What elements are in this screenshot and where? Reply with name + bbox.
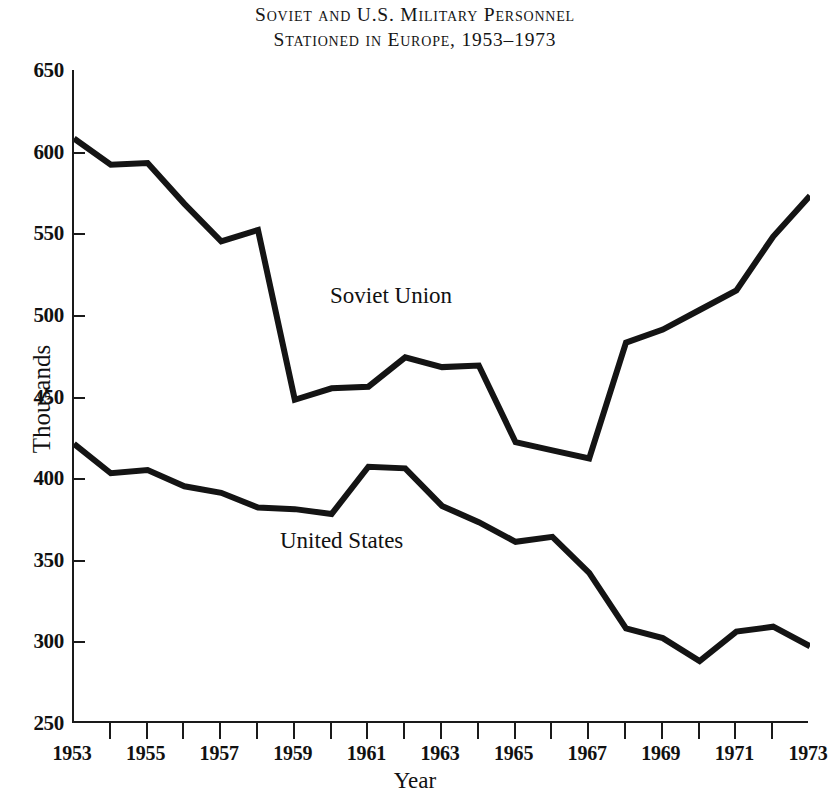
y-axis-tick-labels: 650600550500450400350300250 xyxy=(0,0,64,797)
x-axis-tick-mark xyxy=(146,723,148,739)
series-label-united-states: United States xyxy=(280,528,403,554)
x-axis-tick-mark xyxy=(330,723,332,739)
y-axis-tick-label: 600 xyxy=(8,139,64,164)
y-axis-tick-label: 350 xyxy=(8,547,64,572)
x-axis-tick-mark xyxy=(477,723,479,739)
x-axis-tick-mark xyxy=(624,723,626,739)
series-line-united-states xyxy=(74,444,810,661)
chart-plot-svg xyxy=(74,70,810,723)
x-axis-tick-mark xyxy=(293,723,295,739)
chart-title-line-1: Soviet and U.S. Military Personnel xyxy=(0,2,830,27)
x-axis-tick-mark xyxy=(182,723,184,739)
y-axis-tick-label: 250 xyxy=(8,711,64,736)
x-axis-tick-mark xyxy=(734,723,736,739)
y-axis-tick-label: 550 xyxy=(8,221,64,246)
series-label-soviet-union: Soviet Union xyxy=(330,283,452,309)
x-axis-tick-mark xyxy=(550,723,552,739)
y-axis-tick-label: 650 xyxy=(8,58,64,83)
x-axis-tick-mark xyxy=(256,723,258,739)
x-axis-tick-label: 1973 xyxy=(763,742,830,765)
x-axis-tick-mark xyxy=(219,723,221,739)
x-axis-tick-mark xyxy=(109,723,111,739)
chart-figure: Soviet and U.S. Military Personnel Stati… xyxy=(0,0,830,797)
chart-title-line-2: Stationed in Europe, 1953–1973 xyxy=(0,27,830,52)
x-axis-tick-mark xyxy=(698,723,700,739)
x-axis-tick-mark xyxy=(440,723,442,739)
y-axis-tick-label: 400 xyxy=(8,466,64,491)
x-axis-tick-mark xyxy=(661,723,663,739)
y-axis-tick-label: 450 xyxy=(8,384,64,409)
plot-area xyxy=(72,70,808,723)
x-axis-tick-mark xyxy=(403,723,405,739)
x-axis-tick-mark xyxy=(514,723,516,739)
x-axis-tick-mark xyxy=(366,723,368,739)
x-axis-tick-mark xyxy=(587,723,589,739)
x-axis-label: Year xyxy=(0,768,830,794)
x-axis-tick-mark xyxy=(771,723,773,739)
chart-title: Soviet and U.S. Military Personnel Stati… xyxy=(0,2,830,53)
y-axis-tick-label: 500 xyxy=(8,302,64,327)
y-axis-tick-label: 300 xyxy=(8,629,64,654)
